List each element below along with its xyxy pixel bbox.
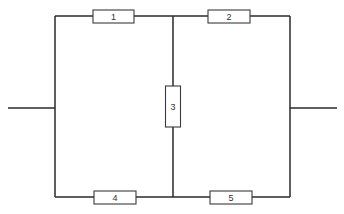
resistor-1-label: 1 — [111, 12, 116, 22]
resistor-1: 1 — [93, 10, 134, 23]
resistor-4: 4 — [94, 191, 136, 204]
resistor-3-label: 3 — [170, 102, 175, 112]
resistor-2-label: 2 — [226, 12, 231, 22]
bridge-circuit-diagram: 1 2 3 4 5 — [0, 0, 344, 214]
resistor-4-label: 4 — [112, 193, 117, 203]
resistor-2: 2 — [208, 10, 250, 23]
resistor-3: 3 — [166, 86, 181, 127]
resistor-5: 5 — [210, 191, 252, 204]
resistor-5-label: 5 — [228, 193, 233, 203]
